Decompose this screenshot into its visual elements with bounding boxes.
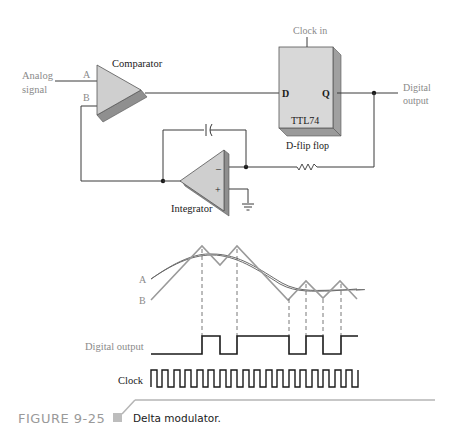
caption-square-icon	[113, 413, 122, 422]
input-b-label: B	[83, 92, 90, 103]
waveform-a-label: A	[139, 274, 147, 285]
ground-icon	[242, 204, 254, 210]
ff-bottom	[279, 128, 341, 136]
delta-modulator-figure: Analog signal A B Comparator D Q TTL74 D…	[0, 0, 460, 446]
figure-caption-text: Delta modulator.	[133, 412, 221, 424]
digital-output-waveform	[151, 336, 358, 354]
figure-number: FIGURE 9-25	[18, 411, 105, 426]
input-b-wire	[81, 106, 163, 181]
integrator-label: Integrator	[171, 203, 213, 214]
comparator-symbol	[97, 65, 147, 122]
digital-output-label-2: output	[403, 95, 429, 106]
circuit-schematic: Analog signal A B Comparator D Q TTL74 D…	[22, 25, 431, 216]
clock-in-label: Clock in	[293, 25, 327, 36]
resistor-icon	[297, 164, 317, 170]
ff-label: D-flip flop	[286, 140, 329, 151]
digital-output-waveform-label: Digital output	[85, 341, 144, 352]
ff-side	[333, 47, 341, 136]
waveform-b-label: B	[139, 295, 146, 306]
analog-signal-label-2: signal	[22, 84, 47, 95]
approximation-signal-b	[151, 246, 357, 300]
ff-q-pin: Q	[322, 88, 330, 99]
ff-part-number: TTL74	[291, 115, 319, 126]
analog-signal-label-1: Analog	[22, 70, 54, 81]
waveform-diagram: A B Digital output Clock	[85, 246, 365, 387]
digital-output-label-1: Digital	[403, 82, 431, 93]
clock-waveform	[151, 370, 358, 387]
analog-signal-curve-a	[151, 254, 365, 290]
input-a-label: A	[83, 69, 91, 80]
ground-wire	[229, 189, 248, 203]
integrator-plus-pin: +	[215, 184, 221, 195]
figure-caption: FIGURE 9-25 Delta modulator.	[18, 400, 435, 426]
integrator-minus-pin: –	[215, 163, 222, 174]
ff-d-pin: D	[282, 88, 289, 99]
clock-waveform-label: Clock	[118, 375, 144, 386]
integrator-body	[180, 150, 224, 211]
comparator-label: Comparator	[112, 58, 163, 69]
